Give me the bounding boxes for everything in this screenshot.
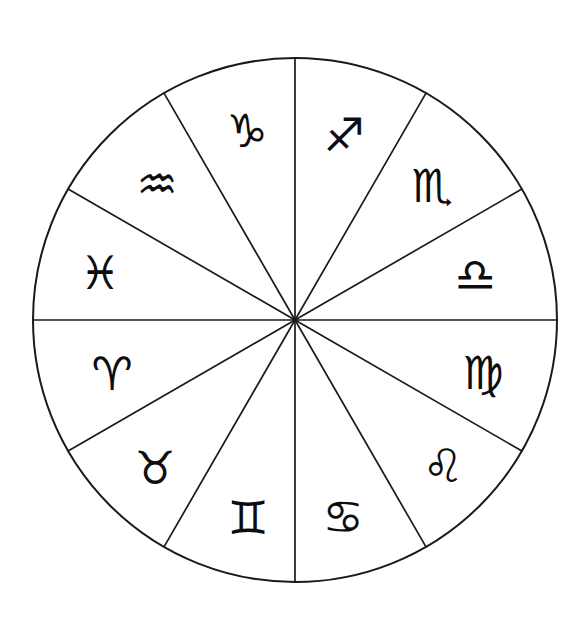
- pisces-fishes-icon: ♓: [79, 246, 120, 300]
- scorpio-scorpion-icon: ♏: [411, 159, 452, 213]
- cancer-crab-icon: ♋: [322, 490, 363, 544]
- gemini-twins-icon: ♊: [227, 491, 268, 545]
- virgo-maiden-icon: ♍: [462, 346, 503, 400]
- leo-lion-icon: ♌: [422, 439, 463, 493]
- libra-scales-icon: ♎: [454, 248, 495, 302]
- capricorn-goat-icon: ♑: [226, 104, 267, 158]
- zodiac-wheel-diagram: ♐♏♎♍♌♋♊♉♈♓♒♑: [0, 0, 582, 622]
- aquarius-waterbearer-icon: ♒: [136, 157, 177, 211]
- aries-ram-icon: ♈: [91, 347, 132, 401]
- taurus-bull-icon: ♉: [134, 441, 175, 495]
- zodiac-wheel-svg: ♐♏♎♍♌♋♊♉♈♓♒♑: [0, 0, 582, 622]
- sagittarius-archer-icon: ♐: [323, 108, 364, 162]
